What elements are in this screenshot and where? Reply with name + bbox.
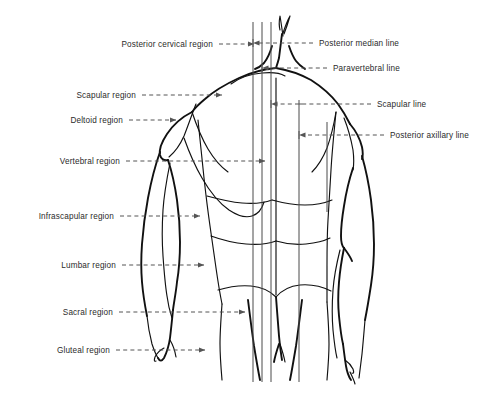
label-paravertebral-line: Paravertebral line bbox=[333, 64, 400, 73]
iliac-crest-left bbox=[218, 286, 276, 297]
right-label-texts: Posterior median line Paravertebral line… bbox=[319, 39, 469, 140]
deltoid-left-outer bbox=[160, 112, 192, 160]
label-scapular-line: Scapular line bbox=[377, 100, 427, 109]
label-posterior-cervical-region: Posterior cervical region bbox=[121, 40, 213, 49]
gluteal-cleft-tip bbox=[274, 344, 279, 362]
forearm-left-crease bbox=[162, 163, 172, 318]
torso-left-contour bbox=[198, 120, 222, 304]
anatomy-figure: Posterior cervical region Scapular regio… bbox=[0, 0, 490, 400]
label-scapular-region: Scapular region bbox=[76, 91, 136, 100]
label-gluteal-region: Gluteal region bbox=[57, 346, 110, 355]
label-sacral-region: Sacral region bbox=[63, 308, 113, 317]
waist-band-mid-left bbox=[211, 236, 276, 244]
label-infrascapular-region: Infrascapular region bbox=[39, 212, 115, 221]
arrow-posterior-median-line bbox=[253, 40, 260, 45]
arm-left-outer-lower bbox=[147, 316, 158, 358]
left-leaders bbox=[116, 44, 265, 350]
thigh-left-inner bbox=[248, 300, 260, 380]
forearm-right-inner bbox=[338, 248, 344, 344]
forearm-left-inner bbox=[168, 160, 180, 310]
arm-right-outer bbox=[362, 156, 374, 320]
neck-center-line bbox=[276, 34, 282, 68]
thigh-left-outer bbox=[220, 304, 222, 380]
anatomy-illustration: Posterior cervical region Scapular regio… bbox=[0, 0, 490, 400]
left-label-texts: Posterior cervical region Scapular regio… bbox=[39, 40, 214, 355]
scapula-right-edge bbox=[312, 112, 336, 172]
shoulder-left bbox=[192, 68, 276, 112]
hand-left bbox=[158, 310, 173, 361]
hair-tuft-right bbox=[283, 16, 290, 34]
hand-left-fingers bbox=[170, 340, 176, 357]
label-posterior-median-line: Posterior median line bbox=[319, 39, 399, 48]
neck-left-edge bbox=[255, 46, 272, 69]
neck-right-edge bbox=[289, 46, 305, 69]
arrow-scapular-line bbox=[271, 101, 278, 106]
arrow-posterior-axillary-line bbox=[299, 132, 306, 137]
label-posterior-axillary-line: Posterior axillary line bbox=[390, 131, 469, 140]
label-deltoid-region: Deltoid region bbox=[70, 116, 123, 125]
waist-band-right bbox=[276, 238, 330, 244]
shoulder-right bbox=[276, 68, 350, 124]
arm-left-outer bbox=[141, 152, 160, 316]
iliac-crest-right bbox=[276, 285, 331, 297]
arm-right-inner bbox=[341, 168, 353, 248]
deltoid-right-outer bbox=[350, 124, 363, 159]
label-lumbar-region: Lumbar region bbox=[61, 261, 116, 270]
elbow-right bbox=[344, 248, 352, 261]
arm-right-outer-lower bbox=[359, 320, 365, 378]
right-leaders bbox=[253, 39, 384, 139]
thigh-right-outer bbox=[327, 302, 329, 380]
label-vertebral-region: Vertebral region bbox=[60, 157, 120, 166]
latissimus-left-fold bbox=[184, 138, 264, 217]
scapula-left-edge bbox=[192, 112, 228, 172]
waist-band-upper-right bbox=[272, 200, 332, 205]
thigh-right-inner bbox=[290, 300, 302, 380]
